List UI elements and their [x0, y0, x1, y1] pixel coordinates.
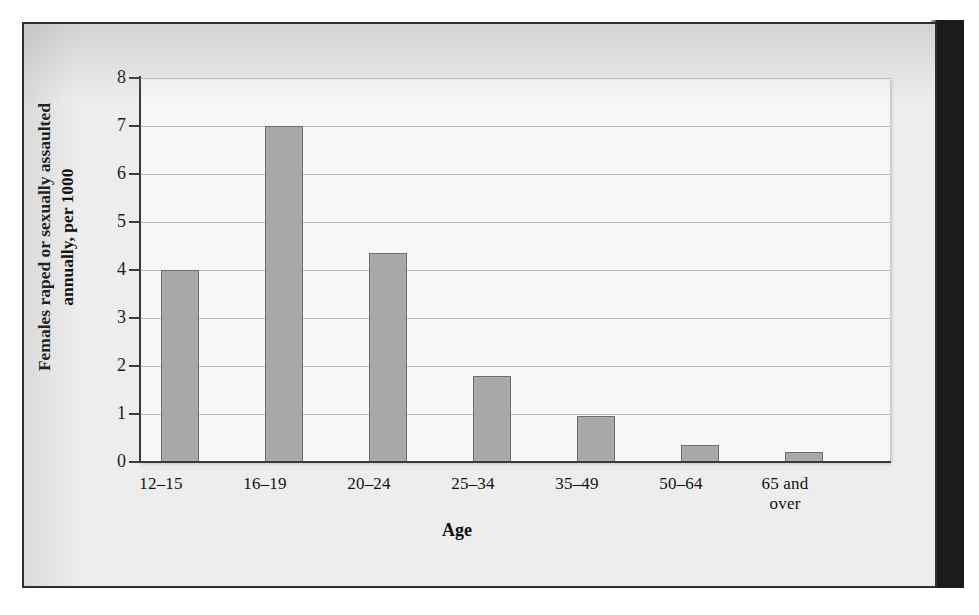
x-label-25-34-line1: 25–34 [423, 474, 523, 494]
y-tick-label-group: 8 7 6 5 4 3 2 1 0 [86, 24, 126, 484]
y-tick-1 [129, 413, 141, 415]
page-gutter-shadow [936, 20, 964, 588]
x-label-20-24-line1: 20–24 [319, 474, 419, 494]
bar-12-15 [161, 270, 199, 462]
y-tick-4 [129, 269, 141, 271]
gridline-1 [140, 414, 890, 415]
plot-area [140, 78, 890, 462]
bar-20-24 [369, 253, 407, 462]
y-tick-8 [129, 77, 141, 79]
bar-25-34 [473, 376, 511, 462]
x-label-65-and-over: 65 and over [735, 474, 835, 514]
gridline-4 [140, 270, 890, 271]
gridline-8 [140, 78, 890, 79]
y-tick-6 [129, 173, 141, 175]
y-tick-label-2: 2 [96, 355, 126, 376]
x-label-25-34: 25–34 [423, 474, 523, 494]
gridline-5 [140, 222, 890, 223]
x-label-50-64: 50–64 [631, 474, 731, 494]
bar-35-49 [577, 416, 615, 462]
y-axis-title: Females raped or sexually assaulted annu… [33, 22, 79, 452]
x-label-65-and-over-line2: over [735, 494, 835, 514]
y-tick-2 [129, 365, 141, 367]
x-label-35-49: 35–49 [527, 474, 627, 494]
y-tick-7 [129, 125, 141, 127]
x-label-12-15: 12–15 [111, 474, 211, 494]
y-axis-title-line2: annually, per 1000 [56, 22, 79, 452]
x-axis-title: Age [24, 520, 890, 541]
gridline-7 [140, 126, 890, 127]
y-tick-label-0: 0 [96, 451, 126, 472]
y-tick-3 [129, 317, 141, 319]
x-label-12-15-line1: 12–15 [111, 474, 211, 494]
x-label-16-19-line1: 16–19 [215, 474, 315, 494]
gridline-3 [140, 318, 890, 319]
x-label-65-and-over-line1: 65 and [735, 474, 835, 494]
x-label-35-49-line1: 35–49 [527, 474, 627, 494]
y-tick-label-7: 7 [96, 115, 126, 136]
y-axis-title-line1: Females raped or sexually assaulted [33, 22, 56, 452]
bar-50-64 [681, 445, 719, 462]
x-label-50-64-line1: 50–64 [631, 474, 731, 494]
bar-16-19 [265, 126, 303, 462]
gridline-6 [140, 174, 890, 175]
figure-frame: 8 7 6 5 4 3 2 1 0 12–15 16–19 20–24 25–3… [22, 22, 937, 588]
gridline-2 [140, 366, 890, 367]
y-tick-label-4: 4 [96, 259, 126, 280]
y-tick-label-3: 3 [96, 307, 126, 328]
y-tick-label-8: 8 [96, 67, 126, 88]
y-tick-0 [129, 461, 141, 463]
y-tick-label-5: 5 [96, 211, 126, 232]
x-axis-line [139, 461, 891, 463]
scanned-page: 8 7 6 5 4 3 2 1 0 12–15 16–19 20–24 25–3… [0, 0, 979, 615]
y-tick-label-6: 6 [96, 163, 126, 184]
y-tick-label-1: 1 [96, 403, 126, 424]
y-tick-5 [129, 221, 141, 223]
x-label-16-19: 16–19 [215, 474, 315, 494]
x-label-20-24: 20–24 [319, 474, 419, 494]
